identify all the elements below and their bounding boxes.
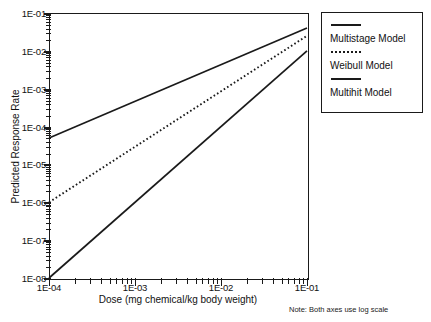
- y-axis-tick-labels: 1E-011E-021E-031E-041E-051E-061E-071E-08: [0, 0, 46, 322]
- x-tick-label: 1E-04: [37, 282, 61, 293]
- legend-label: Multihit Model: [328, 87, 422, 98]
- y-tick-label: 1E-07: [22, 235, 46, 246]
- y-tick-label: 1E-03: [22, 83, 46, 94]
- legend: Multistage ModelWeibull ModelMultihit Mo…: [321, 12, 423, 113]
- legend-label: Multistage Model: [328, 33, 422, 44]
- x-tick-label: 1E-01: [295, 282, 319, 293]
- x-tick-label: 1E-02: [209, 282, 233, 293]
- legend-solid-line-icon: [331, 24, 361, 32]
- y-tick-label: 1E-05: [22, 159, 46, 170]
- legend-dotted-line-icon: [331, 51, 361, 59]
- chart-figure: Predicted Response Rate 1E-011E-021E-031…: [0, 0, 431, 322]
- legend-solid-line-icon: [331, 78, 361, 86]
- legend-label: Weibull Model: [328, 60, 422, 71]
- legend-entry: Multistage Model: [328, 24, 422, 44]
- y-tick-label: 1E-01: [22, 8, 46, 19]
- y-tick-label: 1E-06: [22, 197, 46, 208]
- x-tick-label: 1E-03: [123, 282, 147, 293]
- y-tick-label: 1E-04: [22, 121, 46, 132]
- legend-entry: Multihit Model: [328, 78, 422, 98]
- chart-note: Note: Both axes use log scale: [289, 305, 388, 314]
- legend-entry: Weibull Model: [328, 51, 422, 71]
- y-tick-label: 1E-02: [22, 45, 46, 56]
- x-axis-title: Dose (mg chemical/kg body weight): [49, 294, 307, 305]
- x-axis-tick-labels: 1E-041E-031E-021E-01: [49, 0, 307, 322]
